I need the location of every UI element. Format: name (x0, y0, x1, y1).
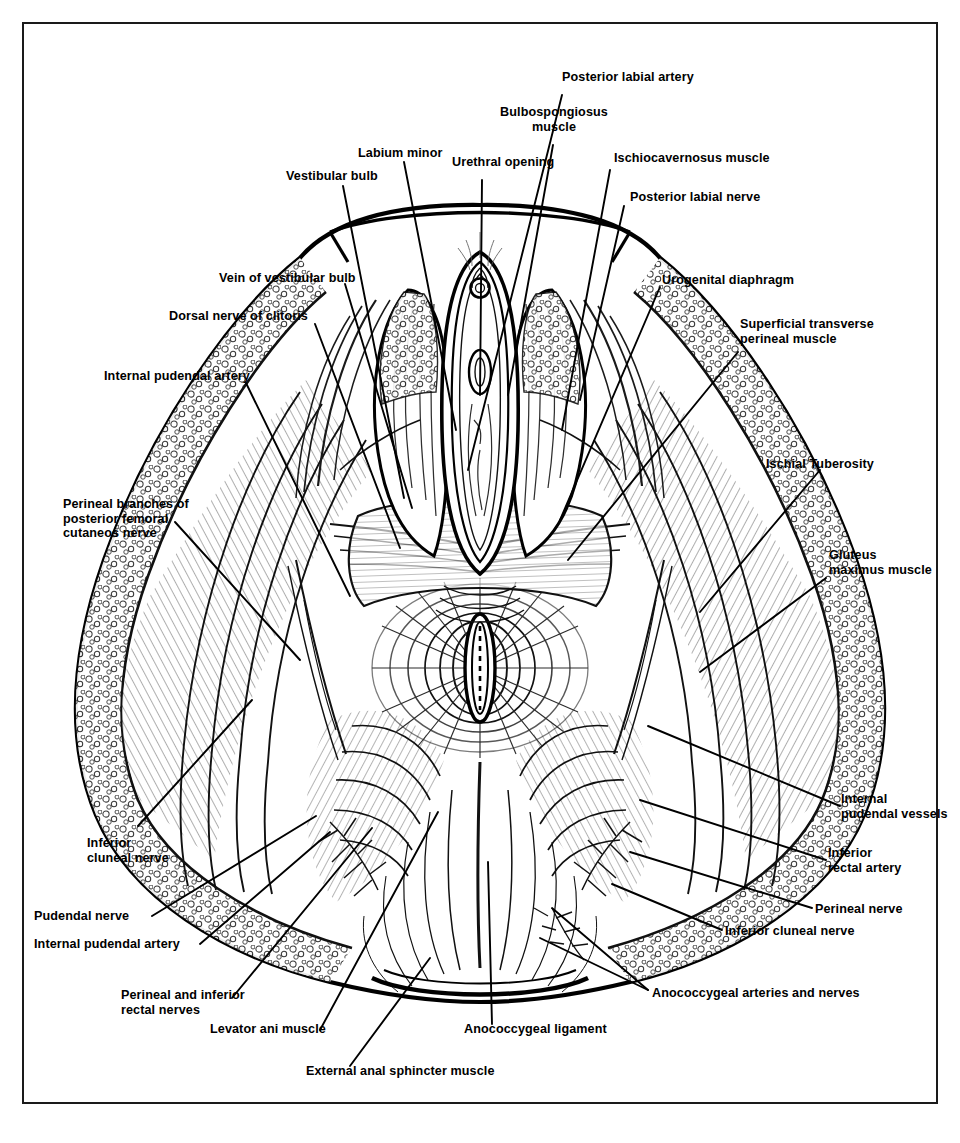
label-posterior-labial-artery: Posterior labial artery (562, 70, 694, 85)
label-inferior-cluneal-nerve-left: Inferior cluneal nerve (87, 836, 169, 865)
label-ischiocavernosus-muscle: Ischiocavernosus muscle (614, 151, 770, 166)
label-superficial-transverse-perineal-muscle: Superficial transverse perineal muscle (740, 317, 874, 346)
label-inferior-cluneal-nerve-right: Inferior cluneal nerve (725, 924, 855, 939)
label-posterior-labial-nerve: Posterior labial nerve (630, 190, 760, 205)
anal-orifice (465, 614, 495, 722)
label-internal-pudendal-artery-upper: Internal pudendal artery (104, 369, 250, 384)
label-internal-pudendal-vessels: Internal pudendal vessels (841, 792, 948, 821)
figure-root: Posterior labial artery Bulbospongiosus … (0, 0, 960, 1143)
label-urethral-opening: Urethral opening (452, 155, 554, 170)
label-pudendal-nerve: Pudendal nerve (34, 909, 129, 924)
label-anococcygeal-ligament: Anococcygeal ligament (464, 1022, 607, 1037)
label-external-anal-sphincter-muscle: External anal sphincter muscle (306, 1064, 494, 1079)
label-dorsal-nerve-of-clitoris: Dorsal nerve of clitoris (169, 309, 308, 324)
label-anococcygeal-arteries-and-nerves: Anococcygeal arteries and nerves (652, 986, 860, 1001)
label-vein-of-vestibular-bulb: Vein of vestibular bulb (219, 271, 356, 286)
anatomical-illustration (0, 0, 960, 1143)
label-inferior-rectal-artery: Inferior rectal artery (828, 846, 901, 875)
label-levator-ani-muscle: Levator ani muscle (210, 1022, 326, 1037)
label-ischial-tuberosity: Ischial Tuberosity (766, 457, 874, 472)
label-vestibular-bulb: Vestibular bulb (286, 169, 378, 184)
label-perineal-branches-posterior-femoral-cutaneous-nerve: Perineal branches of posterior femoral c… (63, 497, 189, 541)
label-perineal-and-inferior-rectal-nerves: Perineal and inferior rectal nerves (121, 988, 245, 1017)
label-labium-minor: Labium minor (358, 146, 442, 161)
label-perineal-nerve: Perineal nerve (815, 902, 903, 917)
label-bulbospongiosus-muscle: Bulbospongiosus muscle (484, 105, 624, 134)
label-gluteus-maximus-muscle: Gluteus maximus muscle (829, 548, 932, 577)
label-internal-pudendal-artery-lower: Internal pudendal artery (34, 937, 180, 952)
scan-artifact-text (60, 1122, 890, 1136)
label-urogenital-diaphragm: Urogenital diaphragm (662, 273, 794, 288)
